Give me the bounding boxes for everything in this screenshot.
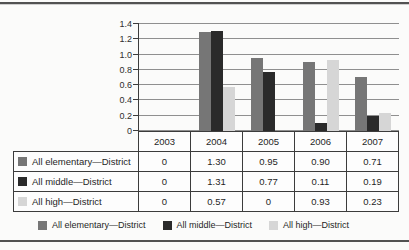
legend-label: All elementary—District — [52, 220, 146, 230]
series-label-cell: All high—District — [14, 192, 139, 212]
series-swatch-icon — [18, 177, 27, 186]
bar-2007-all-elementary-district — [355, 77, 367, 131]
value-cell: 0.23 — [347, 192, 399, 212]
value-cell: 0 — [139, 172, 191, 192]
table-row-all-elementary-district: All elementary—District01.300.950.900.71 — [14, 152, 399, 172]
y-axis-label: 0.2 — [119, 111, 132, 121]
value-cell: 0 — [243, 192, 295, 212]
series-name: All elementary—District — [32, 156, 131, 167]
year-header-cell: 2006 — [295, 132, 347, 152]
value-cell: 0.93 — [295, 192, 347, 212]
value-cell: 1.31 — [191, 172, 243, 192]
y-axis-label: 0.4 — [119, 95, 132, 105]
value-cell: 0.71 — [347, 152, 399, 172]
bar-2006-all-elementary-district — [303, 62, 315, 131]
legend-item-all-middle-district: All middle—District — [163, 220, 253, 230]
series-label-cell: All elementary—District — [14, 152, 139, 172]
series-name: All middle—District — [32, 176, 112, 187]
data-table: 20032004200520062007All elementary—Distr… — [13, 131, 399, 212]
legend-label: All middle—District — [177, 220, 253, 230]
value-cell: 0.11 — [295, 172, 347, 192]
y-axis-label: 0.8 — [119, 65, 132, 75]
y-axis-label: 1.4 — [119, 19, 132, 29]
value-cell: 0 — [139, 152, 191, 172]
bar-2007-all-high-district — [379, 113, 391, 131]
bar-group-2007 — [355, 77, 391, 131]
top-rule — [0, 2, 409, 5]
value-cell: 1.30 — [191, 152, 243, 172]
bar-group-2006 — [303, 60, 339, 131]
bar-group-2005 — [251, 58, 287, 131]
series-name: All high—District — [32, 196, 102, 207]
year-header-cell: 2005 — [243, 132, 295, 152]
value-cell: 0.57 — [191, 192, 243, 212]
y-axis-tick — [133, 99, 139, 100]
value-cell: 0.19 — [347, 172, 399, 192]
y-axis-label: 0.6 — [119, 80, 132, 90]
bar-2006-all-high-district — [327, 60, 339, 131]
document-figure: 00.20.40.60.81.01.21.4 20032004200520062… — [0, 0, 409, 250]
bar-2004-all-high-district — [223, 87, 235, 131]
table-header-row: 20032004200520062007 — [14, 132, 399, 152]
bottom-rule — [0, 240, 409, 242]
year-header-cell: 2003 — [139, 132, 191, 152]
legend-swatch-icon — [269, 221, 278, 230]
y-axis-tick — [133, 23, 139, 24]
legend: All elementary—DistrictAll middle—Distri… — [38, 220, 349, 230]
bar-group-2004 — [199, 31, 235, 131]
y-axis-tick — [133, 38, 139, 39]
legend-item-all-high-district: All high—District — [269, 220, 349, 230]
series-swatch-icon — [18, 157, 27, 166]
bar-2005-all-middle-district — [263, 72, 275, 131]
bar-2007-all-middle-district — [367, 116, 379, 131]
bar-2006-all-middle-district — [315, 123, 327, 131]
legend-label: All high—District — [283, 220, 349, 230]
value-cell: 0.95 — [243, 152, 295, 172]
legend-item-all-elementary-district: All elementary—District — [38, 220, 146, 230]
y-axis-tick — [133, 69, 139, 70]
value-cell: 0 — [139, 192, 191, 212]
legend-swatch-icon — [38, 221, 47, 230]
table-row-all-high-district: All high—District00.5700.930.23 — [14, 192, 399, 212]
year-header-cell: 2007 — [347, 132, 399, 152]
y-axis-tick — [133, 54, 139, 55]
bar-2005-all-elementary-district — [251, 58, 263, 131]
series-swatch-icon — [18, 197, 27, 206]
table-row-all-middle-district: All middle—District01.310.770.110.19 — [14, 172, 399, 192]
bar-2004-all-middle-district — [211, 31, 223, 131]
y-axis-tick — [133, 84, 139, 85]
gridline-1.4 — [139, 23, 399, 24]
gridline-1.0 — [139, 54, 399, 55]
y-axis-label: 1.2 — [119, 34, 132, 44]
table-corner-cell — [14, 132, 139, 152]
value-cell: 0.77 — [243, 172, 295, 192]
series-label-cell: All middle—District — [14, 172, 139, 192]
gridline-1.2 — [139, 38, 399, 39]
y-axis-label: 1.0 — [119, 50, 132, 60]
legend-swatch-icon — [163, 221, 172, 230]
y-axis-tick — [133, 115, 139, 116]
year-header-cell: 2004 — [191, 132, 243, 152]
value-cell: 0.90 — [295, 152, 347, 172]
plot-area — [138, 24, 399, 131]
data-table-body: 20032004200520062007All elementary—Distr… — [14, 132, 399, 212]
bar-2004-all-elementary-district — [199, 32, 211, 131]
y-axis-labels: 00.20.40.60.81.01.21.4 — [0, 24, 132, 131]
